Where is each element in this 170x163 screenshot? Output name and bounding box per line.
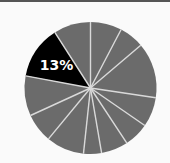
pie-chart: 13% xyxy=(0,0,170,163)
pie-chart-canvas: 13% xyxy=(0,0,170,163)
slice-percentage-label: 13% xyxy=(40,57,74,73)
